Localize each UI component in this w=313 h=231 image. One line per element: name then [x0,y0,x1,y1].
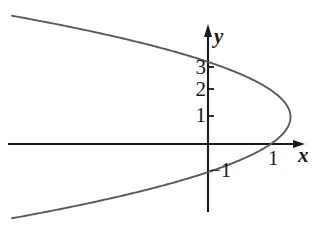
y-axis-tick-label-negative-1: −1 [209,160,231,181]
y-axis-arrow-icon [204,24,212,37]
y-axis-tick-label-2: 2 [184,79,206,100]
parabola-curve [12,16,290,219]
y-axis-tick-label-3: 3 [184,57,206,78]
x-axis-tick-label-1: 1 [268,148,279,169]
plot-canvas [0,0,313,231]
y-axis-tick-label-1: 1 [184,105,206,126]
y-axis-label: y [214,26,223,47]
x-axis-label: x [298,145,309,166]
parabola-figure: 3 2 1 1 −1 y x [0,0,313,231]
